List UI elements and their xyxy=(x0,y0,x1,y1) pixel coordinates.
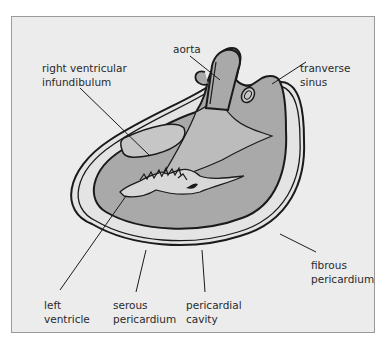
label-transverse-sinus: tranverse sinus xyxy=(300,61,350,89)
label-fibrous-pericardium: fibrous pericardium xyxy=(311,258,374,286)
label-serous-pericardium: serous pericardium xyxy=(113,298,176,326)
label-aorta: aorta xyxy=(173,42,201,56)
pulmonary-stub xyxy=(195,71,208,84)
label-pericardial-cavity: pericardial cavity xyxy=(186,298,242,326)
label-left-ventricle: left ventricle xyxy=(44,298,90,326)
label-right-ventricular-infundibulum: right ventricular infundibulum xyxy=(42,61,127,89)
